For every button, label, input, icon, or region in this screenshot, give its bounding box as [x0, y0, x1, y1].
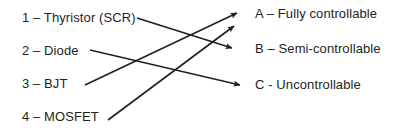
left-item-1: 1 – Thyristor (SCR) — [22, 11, 136, 24]
left-item-4: 4 – MOSFET — [22, 110, 99, 123]
right-item-a: A – Fully controllable — [255, 7, 377, 20]
connector-1-to-B — [137, 18, 232, 48]
right-item-c: C - Uncontrollable — [255, 78, 361, 91]
right-item-b: B – Semi-controllable — [255, 42, 381, 55]
connector-4-to-A — [108, 26, 234, 120]
diagram-canvas: 1 – Thyristor (SCR) 2 – Diode 3 – BJT 4 … — [0, 0, 401, 136]
left-item-3: 3 – BJT — [22, 77, 68, 90]
connector-2-to-C — [90, 50, 240, 85]
left-item-2: 2 – Diode — [22, 44, 79, 57]
